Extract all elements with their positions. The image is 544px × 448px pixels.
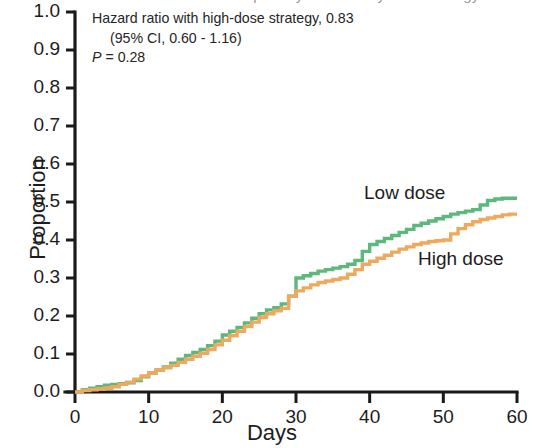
plot-canvas	[0, 0, 544, 448]
series-label-high-dose: High dose	[418, 248, 504, 270]
series-group	[75, 198, 517, 392]
chart-figure: Cumulative incidence of the primary outc…	[0, 0, 544, 448]
series-label-low-dose: Low dose	[364, 182, 445, 204]
axes-group	[65, 12, 517, 403]
series-line-high-dose	[75, 214, 517, 392]
